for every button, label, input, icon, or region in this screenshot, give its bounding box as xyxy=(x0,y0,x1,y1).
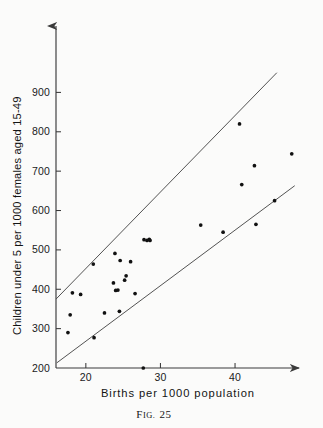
data-point xyxy=(79,293,83,297)
data-point xyxy=(124,274,128,278)
x-tick-label: 30 xyxy=(154,371,166,383)
lower-bound-line xyxy=(57,186,295,363)
data-point xyxy=(290,152,294,156)
data-point xyxy=(133,292,137,296)
envelope-lines xyxy=(56,73,295,363)
y-tick-label: 700 xyxy=(32,165,50,177)
upper-bound-line xyxy=(56,73,277,299)
x-tick-label: 20 xyxy=(80,371,92,383)
data-point xyxy=(68,313,72,317)
scatter-plot: 200300400500600700800900 203040 Children… xyxy=(0,0,323,428)
y-tick-label: 400 xyxy=(32,283,50,295)
data-point xyxy=(71,291,75,295)
y-axis-label: Children under 5 per 1000 females aged 1… xyxy=(11,96,23,335)
y-tick-label: 900 xyxy=(32,86,50,98)
data-point xyxy=(141,366,145,370)
axes-group xyxy=(56,26,299,368)
svg-text:FIG.25: FIG.25 xyxy=(136,408,171,420)
data-point xyxy=(129,260,133,264)
data-point xyxy=(199,223,203,227)
data-point xyxy=(118,259,122,263)
caption-small: IG. xyxy=(143,411,155,420)
data-point xyxy=(66,331,70,335)
data-point xyxy=(273,199,277,203)
x-axis-tick-labels: 203040 xyxy=(80,371,241,383)
data-points xyxy=(66,122,294,370)
y-tick-label: 200 xyxy=(32,362,50,374)
y-axis-tick-labels: 200300400500600700800900 xyxy=(32,86,50,374)
data-point xyxy=(112,281,116,285)
caption-prefix: F xyxy=(136,408,143,420)
data-point xyxy=(91,262,95,266)
data-point xyxy=(240,183,244,187)
x-axis-label: Births per 1000 population xyxy=(101,387,255,399)
data-point xyxy=(118,309,122,313)
y-tick-label: 300 xyxy=(32,322,50,334)
figure-caption: FIG.25 xyxy=(136,408,171,420)
y-axis-ticks xyxy=(56,92,61,328)
figure-container: 200300400500600700800900 203040 Children… xyxy=(0,0,323,428)
x-tick-label: 40 xyxy=(229,371,241,383)
data-point xyxy=(254,222,258,226)
y-tick-label: 600 xyxy=(32,204,50,216)
y-tick-label: 800 xyxy=(32,125,50,137)
data-point xyxy=(103,311,107,315)
data-point xyxy=(148,239,152,243)
y-tick-label: 500 xyxy=(32,243,50,255)
x-axis-ticks xyxy=(86,363,235,368)
data-point xyxy=(221,230,225,234)
caption-number: 25 xyxy=(159,408,171,420)
data-point xyxy=(92,336,96,340)
data-point xyxy=(116,288,120,292)
data-point xyxy=(238,122,242,126)
data-point xyxy=(253,164,257,168)
data-point xyxy=(123,278,127,282)
data-point xyxy=(113,252,117,256)
